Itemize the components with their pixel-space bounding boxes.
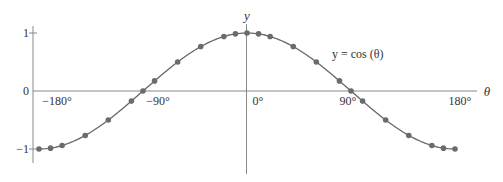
x-axis-label: θ	[484, 84, 491, 99]
data-point	[406, 133, 412, 139]
data-point	[106, 117, 112, 123]
data-point	[36, 146, 42, 152]
data-point	[140, 88, 146, 94]
data-point	[233, 31, 239, 37]
data-point	[290, 44, 296, 50]
data-point	[383, 117, 389, 123]
function-label: y = cos (θ)	[332, 47, 384, 61]
data-point	[452, 146, 458, 152]
data-point	[244, 30, 250, 36]
x-tick-label: −180°	[42, 94, 72, 108]
data-point	[348, 88, 354, 94]
x-tick-label: 180°	[449, 94, 472, 108]
left-y-tick-labels: 10−1	[16, 26, 29, 156]
y-tick-label: 0	[23, 84, 29, 98]
data-point	[256, 31, 262, 37]
y-tick-label: 1	[23, 26, 29, 40]
data-point	[59, 143, 65, 149]
data-point	[429, 143, 435, 149]
data-point	[337, 78, 343, 84]
data-point	[267, 34, 273, 40]
data-point	[82, 133, 88, 139]
data-point	[360, 98, 366, 104]
data-point	[48, 145, 54, 151]
data-point	[314, 59, 320, 65]
data-point	[441, 145, 447, 151]
cosine-chart: 10−1 y θ −180°−90°0°90°180° y = cos (θ)	[0, 0, 503, 182]
data-point	[152, 78, 158, 84]
x-tick-labels: −180°−90°0°90°180°	[42, 94, 471, 108]
data-point	[129, 98, 135, 104]
x-tick-label: 90°	[340, 94, 357, 108]
y-axis-label: y	[242, 8, 250, 23]
x-tick-label: 0°	[253, 94, 264, 108]
data-point	[175, 59, 181, 65]
data-point	[198, 44, 204, 50]
data-point	[221, 34, 227, 40]
y-tick-label: −1	[16, 142, 29, 156]
x-tick-label: −90°	[146, 94, 170, 108]
